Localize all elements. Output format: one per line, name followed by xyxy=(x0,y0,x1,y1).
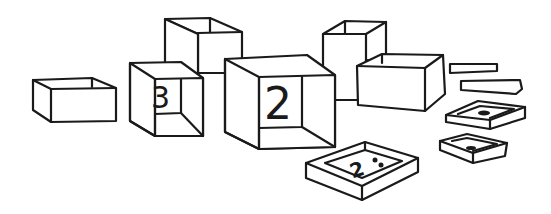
box-3: 3 xyxy=(130,62,203,136)
tray-contents xyxy=(466,146,476,150)
boxes-illustration: 3 2 xyxy=(0,0,551,214)
tray-right-upper xyxy=(446,101,525,129)
dot xyxy=(373,158,378,163)
box-right-medium xyxy=(357,54,445,111)
tray-front: 2 xyxy=(306,142,418,200)
lid-top xyxy=(450,64,497,73)
tray-right-lower xyxy=(440,134,507,163)
box-2: 2 xyxy=(225,55,335,149)
box-2-label: 2 xyxy=(264,78,292,129)
tray-contents xyxy=(478,111,490,116)
lid-bottom xyxy=(461,80,522,94)
box-3-label: 3 xyxy=(151,80,170,115)
dot xyxy=(379,163,384,168)
box-far-left xyxy=(33,78,116,122)
